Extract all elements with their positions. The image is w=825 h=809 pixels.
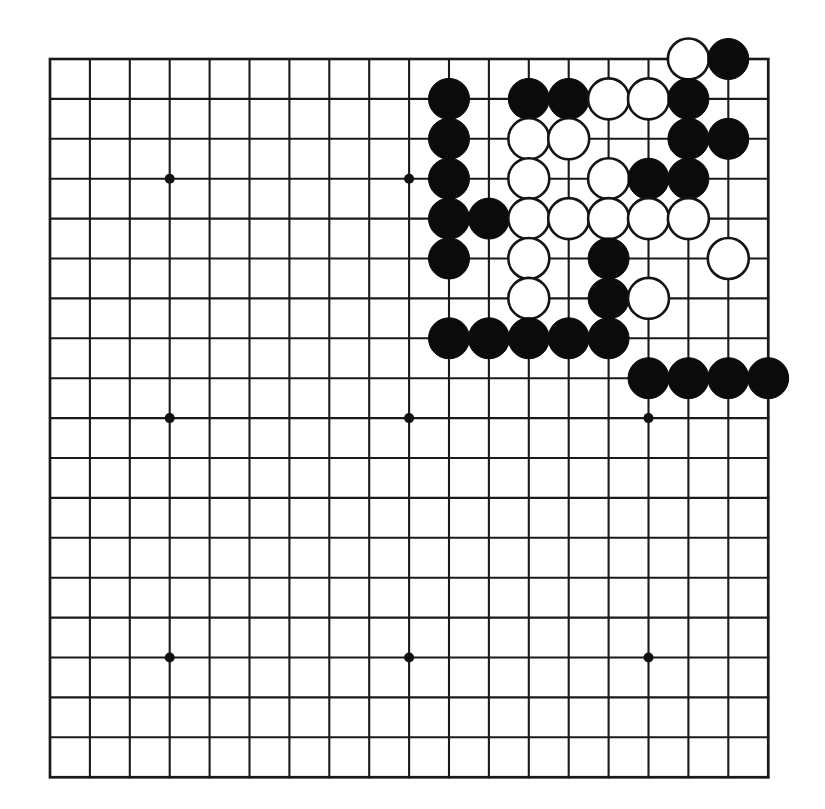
black-stone[interactable] — [429, 118, 470, 159]
white-stone[interactable] — [708, 238, 749, 279]
black-stone[interactable] — [548, 78, 589, 119]
black-stone[interactable] — [708, 118, 749, 159]
go-board-figure — [0, 0, 825, 809]
black-stone[interactable] — [429, 78, 470, 119]
white-stone[interactable] — [628, 78, 669, 119]
black-stone[interactable] — [748, 358, 789, 399]
black-stone[interactable] — [508, 318, 549, 359]
black-stone[interactable] — [429, 198, 470, 239]
white-stone[interactable] — [628, 278, 669, 319]
star-point — [644, 413, 654, 423]
black-stone[interactable] — [628, 358, 669, 399]
white-stone[interactable] — [508, 198, 549, 239]
white-stone[interactable] — [548, 118, 589, 159]
black-stone[interactable] — [548, 318, 589, 359]
black-stone[interactable] — [668, 78, 709, 119]
black-stone[interactable] — [668, 118, 709, 159]
white-stone[interactable] — [588, 158, 629, 199]
black-stone[interactable] — [588, 238, 629, 279]
white-stone[interactable] — [588, 78, 629, 119]
star-point — [165, 174, 175, 184]
white-stone[interactable] — [628, 198, 669, 239]
black-stone[interactable] — [429, 158, 470, 199]
black-stone[interactable] — [628, 158, 669, 199]
black-stone[interactable] — [468, 318, 509, 359]
black-stone[interactable] — [668, 158, 709, 199]
go-board-canvas[interactable] — [0, 0, 825, 809]
black-stone[interactable] — [468, 198, 509, 239]
black-stone[interactable] — [668, 358, 709, 399]
star-point — [165, 413, 175, 423]
black-stone[interactable] — [708, 39, 749, 80]
white-stone[interactable] — [508, 118, 549, 159]
white-stone[interactable] — [508, 278, 549, 319]
black-stone[interactable] — [588, 318, 629, 359]
black-stone[interactable] — [429, 238, 470, 279]
black-stone[interactable] — [508, 78, 549, 119]
star-point — [404, 413, 414, 423]
star-point — [644, 653, 654, 663]
white-stone[interactable] — [548, 198, 589, 239]
star-point — [404, 653, 414, 663]
white-stone[interactable] — [508, 238, 549, 279]
white-stone[interactable] — [508, 158, 549, 199]
star-point — [165, 653, 175, 663]
black-stone[interactable] — [708, 358, 749, 399]
white-stone[interactable] — [588, 198, 629, 239]
white-stone[interactable] — [668, 198, 709, 239]
black-stone[interactable] — [429, 318, 470, 359]
star-point — [404, 174, 414, 184]
white-stone[interactable] — [668, 39, 709, 80]
black-stone[interactable] — [588, 278, 629, 319]
